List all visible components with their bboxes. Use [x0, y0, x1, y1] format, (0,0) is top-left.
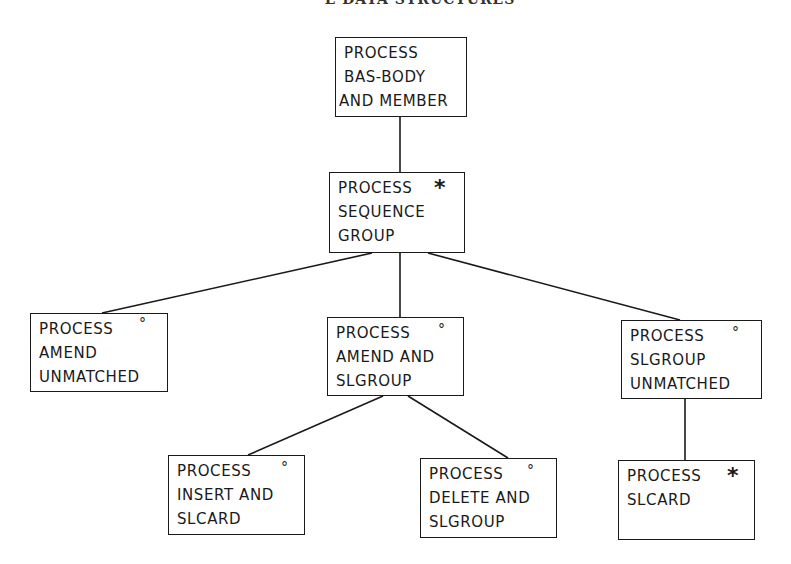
node-label-line: PROCESS: [630, 324, 761, 348]
node-label-line: SLGROUP: [336, 369, 463, 393]
node-process-sequence-group: PROCESS SEQUENCE GROUP *: [329, 172, 465, 253]
iteration-marker-icon: *: [727, 467, 739, 485]
node-label-line: SLGROUP: [630, 348, 761, 372]
node-label-line: PROCESS: [429, 462, 556, 486]
node-process-insert-and-slcard: PROCESS INSERT AND SLCARD °: [168, 455, 305, 535]
iteration-marker-icon: *: [434, 179, 446, 197]
node-label-line: UNMATCHED: [39, 365, 167, 389]
node-label-line: PROCESS: [344, 41, 466, 65]
node-label-line: PROCESS: [39, 317, 167, 341]
node-label-line: AMEND AND: [336, 345, 463, 369]
node-label-line: SEQUENCE: [338, 200, 464, 224]
selection-marker-icon: °: [281, 460, 289, 474]
node-process-amend-unmatched: PROCESS AMEND UNMATCHED °: [30, 313, 168, 392]
node-label-line: BAS-BODY: [344, 65, 466, 89]
node-process-delete-and-slgroup: PROCESS DELETE AND SLGROUP °: [420, 458, 557, 538]
node-process-amend-and-slgroup: PROCESS AMEND AND SLGROUP °: [327, 317, 464, 396]
selection-marker-icon: °: [438, 322, 446, 336]
selection-marker-icon: °: [139, 316, 147, 330]
node-label-line: UNMATCHED: [630, 372, 761, 396]
edge-n2-n3: [102, 253, 372, 313]
edge-n2-n5: [428, 253, 680, 320]
node-label-line: AMEND: [39, 341, 167, 365]
node-label-line: AND MEMBER: [339, 89, 466, 113]
edge-n4-n7: [408, 396, 508, 458]
edge-n4-n6: [248, 396, 383, 455]
selection-marker-icon: °: [732, 325, 740, 339]
node-label-line: SLGROUP: [429, 510, 556, 534]
node-label-line: SLCARD: [627, 488, 754, 512]
node-label-line: INSERT AND: [177, 483, 304, 507]
node-process-slcard: PROCESS SLCARD *: [618, 460, 755, 540]
node-process-bas-body-and-member: PROCESS BAS-BODY AND MEMBER: [335, 37, 467, 117]
node-label-line: SLCARD: [177, 507, 304, 531]
node-label-line: DELETE AND: [429, 486, 556, 510]
node-label-line: GROUP: [338, 224, 464, 248]
node-process-slgroup-unmatched: PROCESS SLGROUP UNMATCHED °: [621, 320, 762, 399]
selection-marker-icon: °: [527, 463, 535, 477]
